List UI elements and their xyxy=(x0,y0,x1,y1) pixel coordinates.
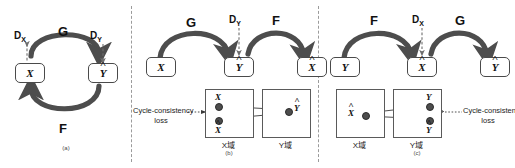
panel-c-domain-label-x: X域 xyxy=(336,139,383,150)
panel-b-domain-box-x xyxy=(205,89,254,138)
panel-c-node-y: Y xyxy=(330,57,360,77)
panel-c-point-y xyxy=(426,103,434,111)
panel-b-mapping-g-label: G xyxy=(186,15,196,30)
panel-b-arrow-f xyxy=(248,33,304,55)
panel-c-domain-box-x xyxy=(336,89,385,138)
panel-c-loss-label: Cycle-consistency loss xyxy=(463,106,513,126)
panel-c-arrow-g xyxy=(431,33,487,55)
panel-divider-right xyxy=(318,6,319,162)
panel-b-point-label-y-hat: Y xyxy=(294,103,300,113)
panel-b-domain-label-y: Y域 xyxy=(262,139,309,150)
panel-c-domain-box-y xyxy=(393,89,442,138)
panel-c-loss-label-line1: Cycle-consistency xyxy=(463,106,513,116)
panel-b-domain-label-x: X域 xyxy=(205,139,252,150)
panel-b-point-x xyxy=(215,103,223,111)
panel-b-arrow-g xyxy=(160,33,228,58)
figure-cyclegan-overview: DX DY G F X Y (a) G F DY X Y X X X Y Cyc… xyxy=(0,0,515,168)
panel-a-discriminator-dy-label: DY xyxy=(90,30,102,43)
panel-b-node-x: X xyxy=(146,57,176,77)
panel-c-point-label-x-hat: X xyxy=(348,108,354,118)
panel-c-point-label-y-hat: Y xyxy=(426,125,432,135)
panel-c-point-label-y: Y xyxy=(426,92,432,102)
panel-c-arrow-f xyxy=(344,33,411,58)
panel-c-domain-label-y: Y域 xyxy=(393,139,440,150)
panel-c-node-y-hat: Y xyxy=(480,57,510,77)
panel-divider-left xyxy=(131,6,132,162)
panel-b-caption: (b) xyxy=(218,150,240,156)
panel-a-arrow-f xyxy=(31,86,99,109)
panel-c-loss-label-line2: loss xyxy=(463,116,513,126)
panel-b-node-x-hat: X xyxy=(297,57,327,77)
panel-a-mapping-g-label: G xyxy=(58,24,68,39)
panel-c-node-x-hat: X xyxy=(407,57,437,77)
panel-b-mapping-f-label: F xyxy=(272,13,280,28)
panel-a-mapping-f-label: F xyxy=(59,121,67,136)
panel-c-mapping-f-label: F xyxy=(370,13,378,28)
panel-b-loss-label-line2: loss xyxy=(133,116,189,126)
panel-c-point-x-hat xyxy=(362,112,370,120)
panel-b-loss-label: Cycle-consistency loss xyxy=(133,106,189,126)
panel-b-discriminator-dy-label: DY xyxy=(229,14,241,27)
panel-b-node-y-hat: Y xyxy=(224,57,254,77)
panel-b-loss-label-line1: Cycle-consistency xyxy=(133,106,189,116)
panel-c-discriminator-dx-label: DX xyxy=(412,14,424,27)
panel-a-node-y-hat: Y xyxy=(88,63,118,83)
panel-b-point-label-x: X xyxy=(215,92,221,102)
panel-b-point-y-hat xyxy=(285,108,293,116)
panel-c-caption: (c) xyxy=(406,150,428,156)
panel-c-mapping-g-label: G xyxy=(455,13,465,28)
panel-b-point-label-x-hat: X xyxy=(215,125,221,135)
panel-a-node-x: X xyxy=(15,63,45,83)
panel-a-caption: (a) xyxy=(55,145,77,151)
panel-a-discriminator-dx-label: DX xyxy=(14,30,26,43)
